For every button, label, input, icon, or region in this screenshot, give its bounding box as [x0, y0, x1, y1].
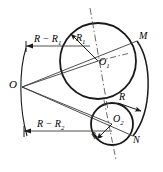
- arrow-radius-R: [118, 103, 141, 111]
- label-point-M: M: [139, 31, 147, 41]
- arc-through-O: [21, 48, 27, 136]
- label-radius-R1-sub: 1: [82, 38, 85, 45]
- ray-O-to-M: [22, 41, 137, 87]
- label-dim-bottom-sub: 2: [61, 124, 64, 131]
- label-center-O2: O2: [113, 114, 124, 127]
- label-center-O: O: [9, 79, 17, 90]
- label-dim-top-sub: 1: [58, 39, 61, 46]
- label-center-O2-sub: 2: [120, 119, 123, 126]
- label-radius-R: R: [119, 92, 125, 102]
- label-point-N: N: [133, 135, 140, 145]
- dim-arrow-top-left: [26, 44, 33, 49]
- label-radius-R1: R1: [76, 33, 86, 46]
- geometry-figure: O O1 O2 R1 R2 R M N R − R1 R − R2: [0, 0, 163, 172]
- label-dim-bottom: R − R2: [37, 119, 64, 132]
- figure-canvas: [0, 0, 163, 172]
- label-center-O1-sub: 1: [106, 62, 109, 69]
- label-dim-top: R − R1: [34, 34, 61, 47]
- label-center-O1: O1: [99, 57, 110, 70]
